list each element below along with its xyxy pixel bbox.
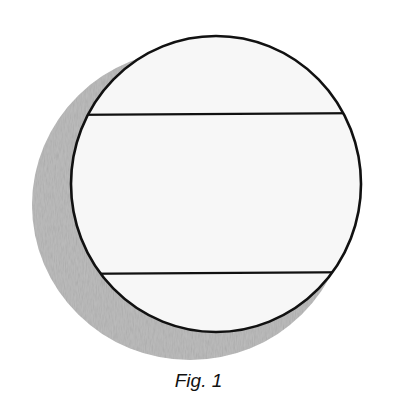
disc-face	[71, 36, 361, 332]
disc-diagram	[0, 0, 397, 410]
figure-caption: Fig. 1	[0, 370, 397, 392]
figure-canvas: Fig. 1	[0, 0, 397, 410]
